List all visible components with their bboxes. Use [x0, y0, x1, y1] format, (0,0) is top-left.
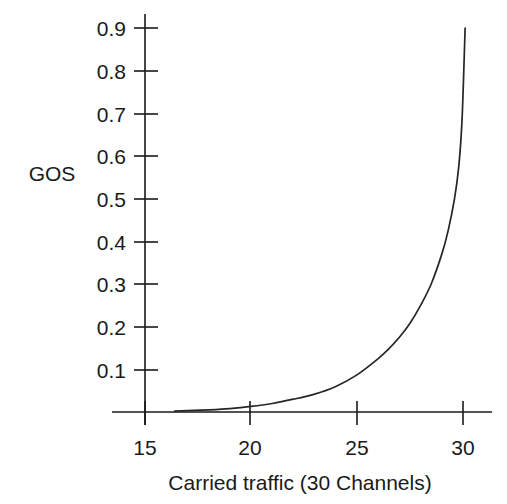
x-tick-label-30: 30 [451, 436, 474, 459]
x-axis-tick-labels: 15 20 25 30 [133, 436, 474, 459]
y-axis-tick-labels: 0.9 0.8 0.7 0.6 0.5 0.4 0.3 0.2 0.1 [97, 17, 127, 382]
chart-figure: 0.9 0.8 0.7 0.6 0.5 0.4 0.3 0.2 0.1 15 2… [0, 0, 507, 504]
gos-line-chart: 0.9 0.8 0.7 0.6 0.5 0.4 0.3 0.2 0.1 15 2… [0, 0, 507, 504]
y-tick-label-0.1: 0.1 [97, 359, 126, 382]
x-axis-title: Carried traffic (30 Channels) [168, 471, 431, 494]
y-tick-label-0.7: 0.7 [97, 103, 126, 126]
y-tick-label-0.5: 0.5 [97, 188, 126, 211]
y-tick-label-0.6: 0.6 [97, 145, 126, 168]
y-tick-label-0.4: 0.4 [97, 231, 127, 254]
y-axis-title: GOS [29, 162, 76, 185]
x-tick-label-20: 20 [238, 436, 261, 459]
y-tick-label-0.8: 0.8 [97, 60, 126, 83]
y-tick-label-0.2: 0.2 [97, 316, 126, 339]
x-tick-label-15: 15 [133, 436, 156, 459]
x-tick-label-25: 25 [345, 436, 368, 459]
y-tick-label-0.9: 0.9 [97, 17, 126, 40]
x-axis-ticks [145, 401, 463, 425]
y-axis-ticks [134, 28, 158, 370]
y-tick-label-0.3: 0.3 [97, 273, 126, 296]
data-curve-gos [175, 28, 465, 411]
